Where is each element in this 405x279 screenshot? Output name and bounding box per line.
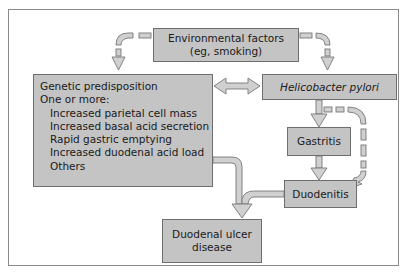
bidirectional-arrow-genetic-hpylori — [214, 78, 260, 94]
genetic-item: Rapid gastric emptying — [40, 133, 206, 146]
arrow-hpylori-to-gastritis — [311, 100, 327, 127]
environmental-factors-label: Environmental factors — [168, 32, 284, 45]
duodenitis-box: Duodenitis — [284, 180, 357, 208]
gastritis-box: Gastritis — [287, 127, 351, 156]
dashed-arrow-env-to-hpylori — [300, 33, 334, 70]
genetic-subtitle: One or more: — [40, 93, 206, 106]
genetic-item: Others — [40, 160, 206, 173]
arrow-genetic-to-ulcer — [213, 157, 242, 204]
genetic-item: Increased basal acid secretion — [40, 120, 206, 133]
environmental-factors-example: (eg, smoking) — [190, 45, 262, 58]
duodenal-ulcer-label: Duodenal ulcer — [172, 228, 252, 241]
environmental-factors-box: Environmental factors (eg, smoking) — [153, 28, 299, 62]
genetic-item: Increased parietal cell mass — [40, 107, 206, 120]
helicobacter-pylori-label: Helicobacter pylori — [280, 81, 379, 94]
duodenal-ulcer-label-2: disease — [192, 241, 232, 254]
gastritis-label: Gastritis — [297, 135, 341, 148]
duodenal-ulcer-box: Duodenal ulcer disease — [162, 219, 262, 263]
genetic-title: Genetic predisposition — [40, 80, 206, 93]
arrow-gastritis-to-duodenitis — [311, 156, 327, 180]
genetic-predisposition-box: Genetic predisposition One or more: Incr… — [33, 74, 213, 187]
duodenitis-label: Duodenitis — [292, 188, 348, 201]
helicobacter-pylori-box: Helicobacter pylori — [262, 74, 397, 100]
genetic-item: Increased duodenal acid load — [40, 146, 206, 159]
dashed-arrow-env-to-genetic — [112, 33, 151, 70]
